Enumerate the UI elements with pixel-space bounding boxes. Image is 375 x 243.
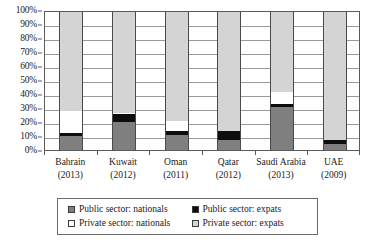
y-axis-tick-mark [38,81,42,82]
y-axis-tick-label: 0% [25,146,37,156]
bar-column [112,12,136,150]
y-axis-tick-label: 70% [20,48,37,58]
x-axis-tick-mark [149,151,150,155]
legend-item-label: Private sector: nationals [79,217,170,230]
y-axis-tick-label: 100% [16,6,37,16]
legend-item[interactable]: Private sector: nationals [68,217,186,230]
bar-segment-private-expats [324,12,346,140]
legend-item[interactable]: Public sector: expats [192,203,310,216]
bar-segment-public-nationals [113,122,135,150]
chart-legend: Public sector: nationalsPublic sector: e… [57,198,318,235]
x-axis-label-year: (2009) [321,169,346,182]
x-axis-label-country: Bahrain [55,157,85,167]
y-axis-tick-mark [38,67,42,68]
y-axis-tick-mark [38,151,42,152]
legend-item-label: Public sector: expats [203,203,282,216]
y-axis-tick-mark [38,109,42,110]
bar-column [59,12,83,150]
x-axis-label: Kuwait(2012) [109,156,137,182]
y-axis-tick-mark [38,123,42,124]
bar-segment-public-nationals [271,107,293,150]
x-axis-label: Oman(2011) [163,156,188,182]
bar-segment-public-nationals [218,140,240,150]
x-axis-label-year: (2013) [55,169,85,182]
x-axis-tick-mark [255,151,256,155]
x-axis-label-country: Qatar [218,157,239,167]
bar-segment-private-expats [113,12,135,113]
bar-segment-public-expats [113,114,135,122]
x-axis-label-year: (2012) [109,169,137,182]
x-axis-label-year: (2012) [216,169,241,182]
stacked-bar-chart: 0%10%20%30%40%50%60%70%80%90%100% Bahrai… [0,0,375,243]
x-axis-tick-mark [307,151,308,155]
private-nationals-swatch [68,220,75,227]
y-axis-tick-label: 10% [20,132,37,142]
bars-layer [45,12,359,150]
x-axis-label-country: Oman [164,157,187,167]
legend-item-label: Private sector: expats [203,217,284,230]
y-axis-tick-label: 20% [20,118,37,128]
bar-segment-private-expats [60,12,82,111]
y-axis-tick-label: 80% [20,34,37,44]
x-axis-tick-mark [359,151,360,155]
bar-segment-private-nationals [60,111,82,133]
bar-segment-public-nationals [60,136,82,150]
x-axis-tick-mark [97,151,98,155]
x-axis-label-country: Saudi Arabia [256,157,305,167]
bar-segment-private-expats [218,12,240,131]
y-axis-tick-label: 40% [20,90,37,100]
bar-segment-private-nationals [271,92,293,104]
y-axis: 0%10%20%30%40%50%60%70%80%90%100% [0,11,42,151]
y-axis-tick-mark [38,53,42,54]
x-axis-tick-mark [202,151,203,155]
y-axis-tick-label: 30% [20,104,37,114]
bar-segment-private-nationals [166,121,188,131]
y-axis-tick-mark [38,11,42,12]
stacked-bar [323,12,347,150]
x-axis-label: UAE(2009) [321,156,346,182]
bar-column [165,12,189,150]
y-axis-tick-label: 50% [20,76,37,86]
y-axis-tick-mark [38,25,42,26]
stacked-bar [217,12,241,150]
stacked-bar [112,12,136,150]
public-expats-swatch [192,206,199,213]
legend-item-label: Public sector: nationals [79,203,168,216]
y-axis-tick-label: 60% [20,62,37,72]
x-axis-tick-mark [44,151,45,155]
x-axis-label-year: (2011) [163,169,188,182]
y-axis-tick-mark [38,39,42,40]
bar-segment-private-expats [271,12,293,92]
stacked-bar [270,12,294,150]
private-expats-swatch [192,220,199,227]
x-axis-label-year: (2013) [256,169,305,182]
legend-item[interactable]: Private sector: expats [192,217,310,230]
bar-segment-private-expats [166,12,188,121]
bar-column [270,12,294,150]
bar-segment-public-nationals [166,135,188,150]
public-nationals-swatch [68,206,75,213]
legend-item[interactable]: Public sector: nationals [68,203,186,216]
x-axis-label: Qatar(2012) [216,156,241,182]
x-axis-labels: Bahrain(2013)Kuwait(2012)Oman(2011)Qatar… [44,156,360,190]
stacked-bar [165,12,189,150]
y-axis-tick-mark [38,95,42,96]
bar-segment-public-nationals [324,144,346,150]
x-axis-label: Bahrain(2013) [55,156,85,182]
plot-area [44,11,360,151]
bar-column [217,12,241,150]
stacked-bar [59,12,83,150]
bar-segment-public-expats [218,131,240,141]
bar-column [323,12,347,150]
x-axis-label: Saudi Arabia(2013) [256,156,305,182]
y-axis-tick-label: 90% [20,20,37,30]
x-axis-label-country: UAE [324,157,344,167]
x-axis-label-country: Kuwait [109,157,137,167]
y-axis-tick-mark [38,137,42,138]
